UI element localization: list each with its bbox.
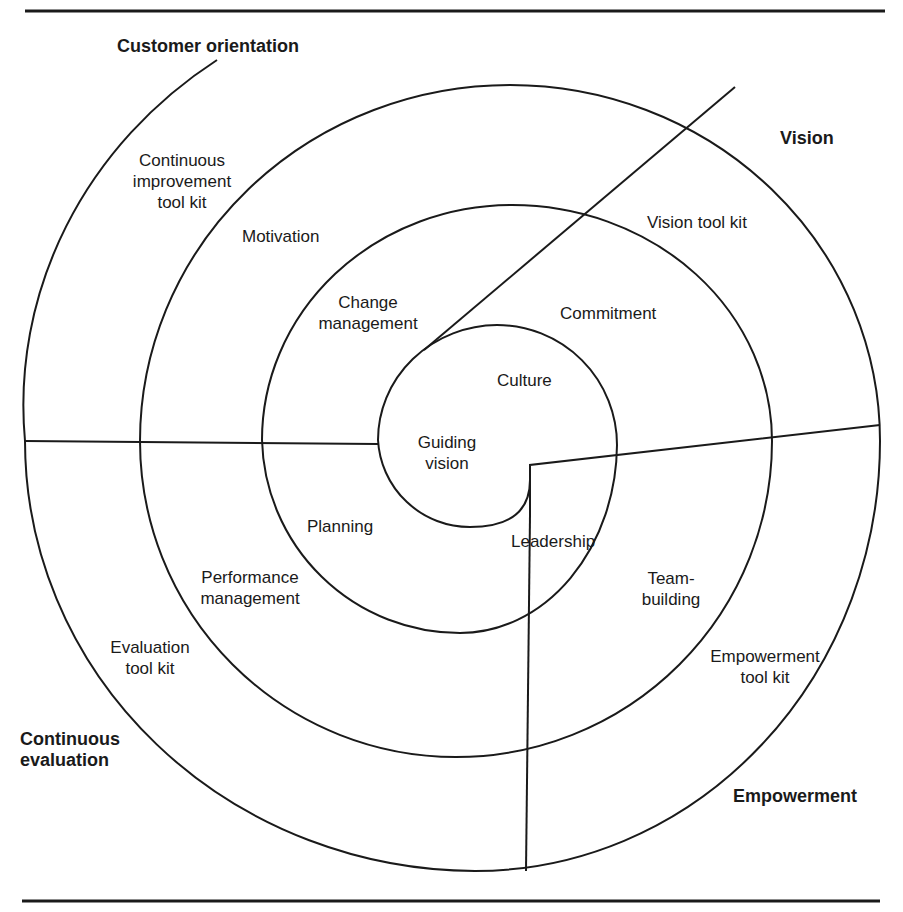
toolkit-evaluation: Evaluation tool kit [97, 637, 203, 679]
label-planning: Planning [307, 516, 373, 537]
label-leadership: Leadership [511, 531, 595, 552]
label-change-management: Change management [306, 292, 430, 334]
section-customer-orientation: Customer orientation [117, 36, 299, 57]
toolkit-empowerment: Empowerment tool kit [700, 646, 830, 688]
toolkit-vision: Vision tool kit [647, 212, 747, 233]
section-continuous-evaluation: Continuous evaluation [20, 729, 120, 771]
label-commitment: Commitment [560, 303, 656, 324]
toolkit-continuous-improvement: Continuous improvement tool kit [120, 150, 244, 213]
label-culture: Culture [497, 370, 552, 391]
divider-bottom [526, 515, 530, 871]
label-motivation: Motivation [242, 226, 319, 247]
label-guiding-vision: Guiding vision [412, 432, 482, 474]
label-performance-management: Performance management [188, 567, 312, 609]
divider-right [530, 425, 880, 515]
section-vision: Vision [780, 128, 834, 149]
spiral-diagram: Customer orientation Vision Empowerment … [0, 0, 903, 912]
label-team-building: Team- building [626, 568, 716, 610]
section-empowerment: Empowerment [733, 786, 857, 807]
divider-left [25, 441, 378, 444]
